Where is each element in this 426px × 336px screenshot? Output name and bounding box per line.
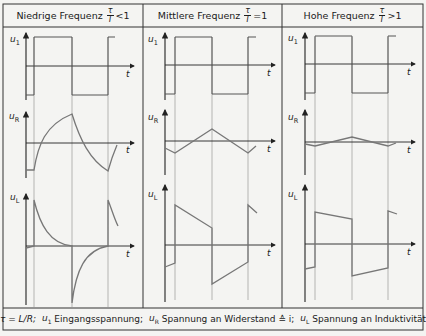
panel-high-frequency bbox=[305, 33, 415, 302]
tau-over-T: τT bbox=[379, 7, 386, 24]
uL-symbol: uL bbox=[300, 313, 309, 325]
tau-over-T: τT bbox=[107, 7, 114, 24]
uR-exponential-curve bbox=[26, 114, 117, 171]
outer-border bbox=[3, 4, 423, 330]
uR-label: uR bbox=[148, 113, 158, 126]
u1-description: Eingangsspannung; bbox=[54, 314, 143, 324]
t-label: t bbox=[126, 69, 130, 79]
u1-label: u1 bbox=[10, 35, 20, 48]
uL-label: uL bbox=[148, 190, 157, 203]
u1-square-wave bbox=[165, 37, 256, 94]
u1-symbol: u1 bbox=[42, 313, 52, 325]
uR-triangle-curve bbox=[305, 137, 396, 146]
column-header-low: Niedrige Frequenz τT <1 bbox=[3, 4, 143, 27]
uR-label: uR bbox=[288, 113, 298, 126]
uR-symbol: uR bbox=[149, 313, 159, 325]
u1-label: u1 bbox=[288, 34, 298, 47]
tau-over-T: τT bbox=[244, 7, 251, 24]
panel-low-frequency bbox=[26, 33, 134, 307]
column-header-high: Hohe Frequenz τT >1 bbox=[282, 4, 423, 27]
uL-description: Spannung an Induktivität bbox=[312, 314, 426, 324]
t-label: t bbox=[407, 145, 411, 155]
t-label: t bbox=[126, 249, 130, 259]
u1-square-wave bbox=[305, 36, 396, 93]
t-label: t bbox=[267, 68, 271, 78]
t-label: t bbox=[407, 247, 411, 257]
uL-sawtooth-curve bbox=[305, 211, 397, 276]
tau-definition: τ = L/R; bbox=[0, 314, 36, 324]
u1-label: u1 bbox=[148, 35, 158, 48]
t-label: t bbox=[407, 67, 411, 77]
t-label: t bbox=[267, 144, 271, 154]
t-label: t bbox=[126, 145, 130, 155]
uR-label: uR bbox=[9, 112, 19, 125]
uL-label: uL bbox=[10, 193, 19, 206]
panel-medium-frequency bbox=[165, 33, 275, 302]
legend-footer: τ = L/R; u1 Eingangsspannung; uR Spannun… bbox=[3, 308, 423, 330]
uR-description: Spannung an Widerstand ≙ i; bbox=[162, 314, 295, 324]
t-label: t bbox=[267, 248, 271, 258]
uL-sawtooth-curve bbox=[165, 205, 257, 284]
uL-label: uL bbox=[288, 190, 297, 203]
column-header-medium: Mittlere Frequenz τT =1 bbox=[143, 4, 282, 27]
rl-circuit-diagram bbox=[0, 0, 426, 336]
